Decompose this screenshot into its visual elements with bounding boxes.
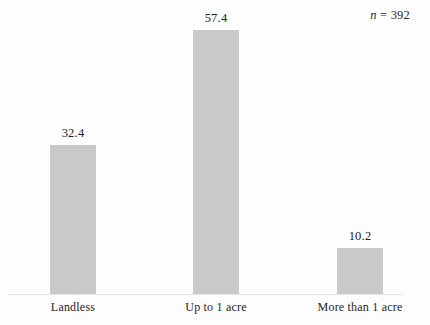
bar-group-up-to-1-acre: 57.4: [193, 0, 239, 295]
bar-value-more-than-1-acre: 10.2: [315, 229, 405, 244]
bar-group-landless: 32.4: [50, 0, 96, 295]
x-axis-baseline: [8, 294, 402, 295]
bar-group-more-than-1-acre: 10.2: [337, 0, 383, 295]
x-axis-tick-labels: Landless Up to 1 acre More than 1 acre: [0, 300, 430, 325]
plot-area: 32.4 57.4 10.2: [0, 0, 430, 295]
bar-landless: [50, 145, 96, 295]
bar-up-to-1-acre: [193, 30, 239, 295]
x-tick-label-up-to-1-acre: Up to 1 acre: [151, 300, 281, 315]
bar-value-landless: 32.4: [28, 126, 118, 141]
bar-chart-figure: n = 392 32.4 57.4 10.2 Landless Up to 1 …: [0, 0, 430, 325]
x-tick-label-landless: Landless: [8, 300, 138, 315]
bar-value-up-to-1-acre: 57.4: [171, 11, 261, 26]
x-tick-label-more-than-1-acre: More than 1 acre: [295, 300, 425, 315]
bar-more-than-1-acre: [337, 248, 383, 295]
